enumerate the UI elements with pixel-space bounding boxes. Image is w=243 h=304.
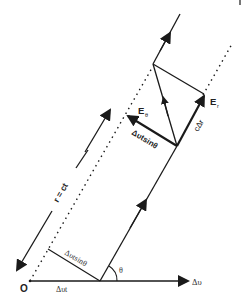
origin-label: O [20, 283, 28, 294]
svg-text:r: r [217, 103, 219, 109]
delta-v-label: Δυ [192, 277, 202, 287]
r-ct-line-upper [76, 150, 88, 168]
upper-left-arrow [85, 110, 110, 152]
delta-vt-sin-theta-bottom-label: Δυtsinθ [63, 248, 89, 268]
propagation-arrow [130, 200, 146, 228]
resultant-arrow [164, 100, 168, 116]
r-ct-line-lower [17, 211, 52, 270]
svg-text:E: E [138, 105, 144, 116]
e-r-label: E r [210, 96, 219, 109]
delta-vt-label: Δυt [56, 285, 68, 294]
field-diagram: O Δυ Δυt θ Δυtsinθ r = ct Δυtsinθ cΔr E … [0, 0, 243, 304]
dotted-line-right [203, 44, 232, 95]
e-theta-label: E θ [138, 105, 148, 118]
c-delta-r-label: cΔr [192, 118, 206, 133]
outer-propagation-arrow [160, 33, 170, 51]
svg-text:E: E [210, 96, 216, 107]
svg-text:θ: θ [145, 112, 148, 118]
r-eq-ct-label: r = ct [51, 181, 70, 204]
theta-arc [109, 266, 117, 281]
theta-label: θ [119, 266, 123, 275]
